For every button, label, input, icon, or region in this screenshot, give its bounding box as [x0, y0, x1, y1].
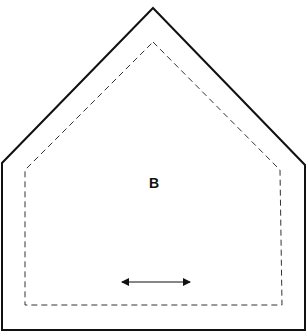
- seam-line-dashed: [25, 42, 282, 305]
- pattern-piece-canvas: [0, 0, 308, 332]
- piece-label: B: [0, 176, 308, 190]
